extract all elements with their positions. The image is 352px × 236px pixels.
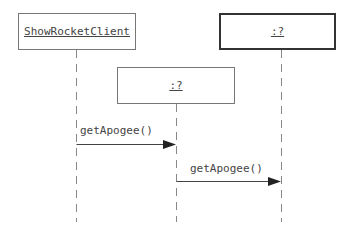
arrowhead-icon xyxy=(163,140,176,149)
participant-anonymous-right: :? xyxy=(219,13,336,50)
message-label-2: getApogee() xyxy=(190,162,263,175)
message-arrow-1 xyxy=(77,140,177,149)
participant-label: :? xyxy=(271,25,284,38)
participant-showrocketclient: ShowRocketClient xyxy=(18,13,136,50)
participant-anonymous-mid: :? xyxy=(117,67,235,104)
participant-label: :? xyxy=(169,79,182,92)
participant-label: ShowRocketClient xyxy=(24,25,130,38)
message-arrow-2 xyxy=(177,177,282,186)
message-label-1: getApogee() xyxy=(80,124,153,137)
arrowhead-icon xyxy=(268,177,281,186)
